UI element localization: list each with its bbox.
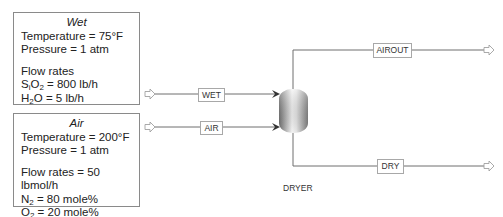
stream-label-airout[interactable]: AIROUT: [373, 43, 412, 58]
feed-arrow-icon: [145, 89, 155, 99]
stream-label-wet[interactable]: WET: [198, 88, 225, 102]
feed-arrow-icon: [145, 122, 155, 132]
wet-flow-label: Flow rates: [21, 65, 139, 79]
wet-pressure: Pressure = 1 atm: [21, 43, 139, 57]
unit-label-dryer: DRYER: [283, 183, 313, 193]
wet-h2o-flow: H2O = 5 lb/h: [21, 92, 139, 106]
air-stream-info-box: Air Temperature = 200°F Pressure = 1 atm…: [13, 113, 140, 207]
product-arrow-icon: [484, 45, 494, 55]
air-temperature: Temperature = 200°F: [21, 131, 139, 145]
wet-sio2-flow: SiO2 = 800 lb/h: [21, 78, 139, 92]
product-arrow-icon: [484, 161, 494, 171]
air-flow-label: Flow rates = 50 lbmol/h: [21, 166, 139, 193]
air-n2-fraction: N2 = 80 mole%: [21, 193, 139, 207]
stream-label-dry[interactable]: DRY: [377, 159, 404, 174]
dryer-vessel-icon[interactable]: [279, 89, 308, 133]
stream-label-air[interactable]: AIR: [200, 121, 223, 135]
wet-temperature: Temperature = 75°F: [21, 30, 139, 44]
air-box-title: Air: [21, 117, 132, 131]
air-o2-fraction: O2 = 20 mole%: [21, 206, 139, 217]
air-pressure: Pressure = 1 atm: [21, 144, 139, 158]
wet-box-title: Wet: [21, 16, 132, 30]
wet-stream-info-box: Wet Temperature = 75°F Pressure = 1 atm …: [13, 12, 140, 105]
